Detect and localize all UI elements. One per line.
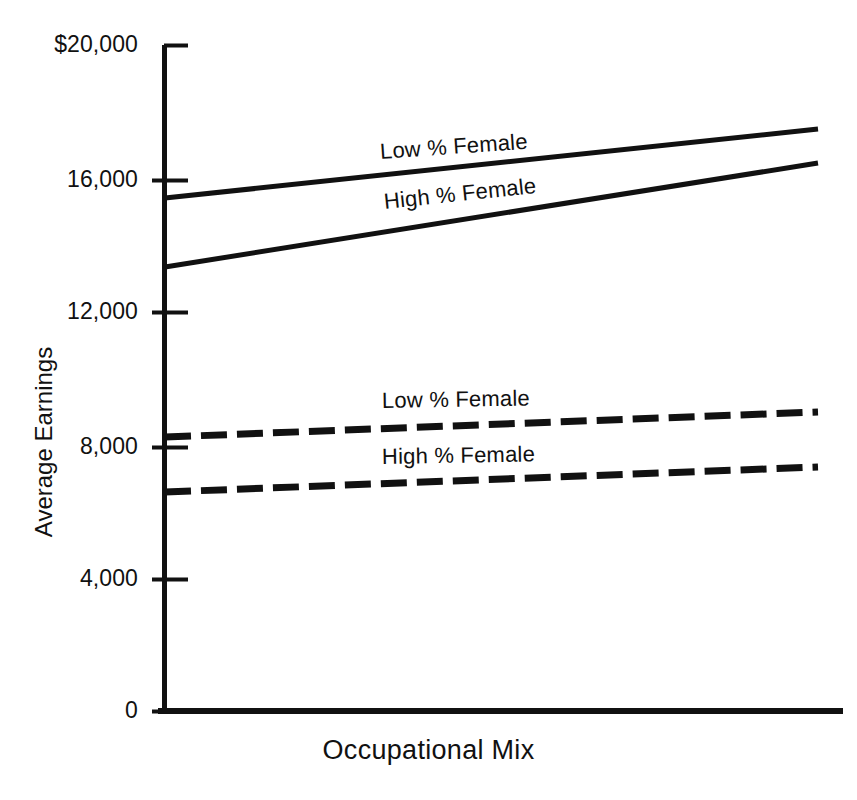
y-tick-label-12000: 12,000 bbox=[10, 300, 138, 323]
x-axis-title: Occupational Mix bbox=[0, 737, 857, 764]
series-line-high-pct-female-dashed bbox=[165, 467, 818, 492]
series-label-lower-high-pct-female: High % Female bbox=[382, 443, 535, 468]
chart-figure: $20,000 16,000 12,000 8,000 4,000 0 Low … bbox=[0, 0, 857, 800]
y-tick-label-20000: $20,000 bbox=[10, 33, 138, 56]
y-tick-label-16000: 16,000 bbox=[10, 168, 138, 191]
y-tick-label-4000: 4,000 bbox=[10, 567, 138, 590]
y-tick-label-0: 0 bbox=[10, 699, 138, 722]
series-label-lower-low-pct-female: Low % Female bbox=[382, 387, 530, 412]
series-line-low-pct-female-dashed bbox=[165, 412, 818, 437]
y-axis-title: Average Earnings bbox=[32, 337, 56, 547]
